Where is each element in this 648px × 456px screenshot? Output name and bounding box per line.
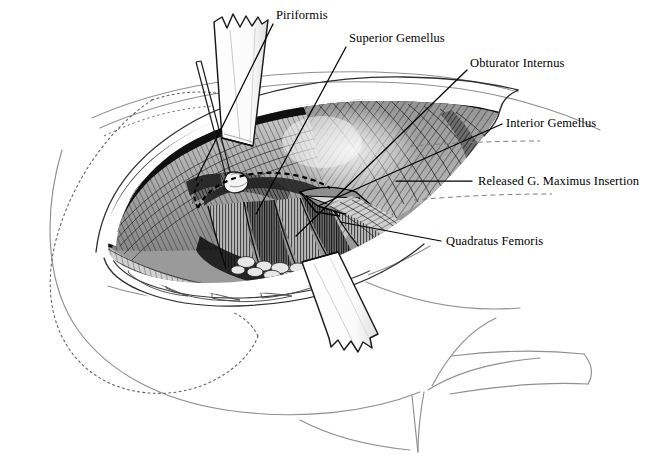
label-released-g-maximus-insertion: Released G. Maximus Insertion [478,174,639,189]
surgical-illustration-figure: Piriformis Superior Gemellus Obturator I… [0,0,648,456]
label-piriformis: Piriformis [276,8,328,23]
label-superior-gemellus: Superior Gemellus [349,31,445,46]
label-obturator-internus: Obturator Internus [470,56,564,71]
label-interior-gemellus: Interior Gemellus [506,116,596,131]
label-quadratus-femoris: Quadratus Femoris [446,234,543,249]
